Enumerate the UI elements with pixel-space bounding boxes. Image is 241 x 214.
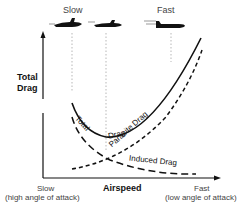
slow-axis-label: Slow [37, 184, 54, 193]
y-axis-label-2: Drag [17, 83, 38, 93]
fast-axis-sublabel: (low angle of attack) [165, 193, 237, 202]
x-axis-label: Airspeed [103, 183, 142, 193]
airplane-icon [144, 21, 185, 28]
slow-axis-sublabel: (high angle of attack) [5, 193, 80, 202]
drag-diagram [0, 0, 241, 214]
fast-label: Fast [157, 5, 175, 15]
slow-label: Slow [63, 5, 83, 15]
airplane-icon [88, 20, 122, 27]
airplane-icon [49, 18, 82, 27]
parasite-drag-curve [72, 50, 202, 169]
y-axis-label-1: Total [17, 72, 38, 82]
fast-axis-label: Fast [194, 184, 210, 193]
